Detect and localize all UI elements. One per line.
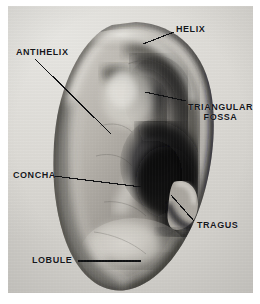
label-triangular-fossa: TRIANGULARFOSSA <box>188 103 253 122</box>
label-triangular-fossa-line2: FOSSA <box>204 112 238 122</box>
label-helix: HELIX <box>176 25 205 35</box>
label-concha: CONCHA <box>13 171 56 181</box>
ear-anatomy-figure: HELIX ANTIHELIX TRIANGULARFOSSA CONCHA T… <box>0 0 260 304</box>
label-tragus: TRAGUS <box>197 221 238 231</box>
label-triangular-fossa-line1: TRIANGULAR <box>188 102 253 112</box>
label-lobule: LOBULE <box>32 256 72 266</box>
label-antihelix: ANTIHELIX <box>16 48 68 58</box>
